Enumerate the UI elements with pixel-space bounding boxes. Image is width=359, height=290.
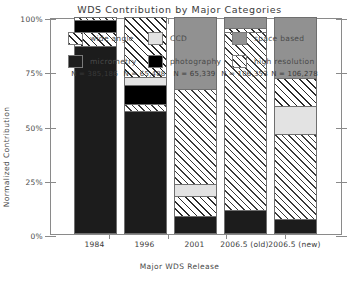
legend-swatch-icon — [232, 55, 247, 68]
legend-item-high: high resolution — [232, 55, 314, 68]
legend-item-space: space based — [232, 32, 304, 45]
legend-label: CCD — [170, 34, 187, 43]
legend-item-wide: wide angle — [68, 32, 134, 45]
legend-swatch-icon — [148, 55, 163, 68]
legend-swatch-icon — [68, 32, 83, 45]
legend-item-ccd: CCD — [148, 32, 187, 45]
legend-swatch-icon — [232, 32, 247, 45]
chart-root: WDS Contribution by Major Categories Nor… — [0, 0, 359, 290]
legend-label: photography — [170, 57, 221, 66]
legend-item-photo: photography — [148, 55, 221, 68]
legend-label: wide angle — [90, 34, 134, 43]
x-axis-title: Major WDS Release — [0, 262, 359, 271]
legend-swatch-icon — [148, 32, 163, 45]
legend-item-micro: micrometry — [68, 55, 136, 68]
legend-swatch-icon — [68, 55, 83, 68]
legend: wide angleCCDspace basedmicrometryphotog… — [0, 0, 359, 290]
legend-label: high resolution — [254, 57, 314, 66]
legend-label: space based — [254, 34, 304, 43]
legend-label: micrometry — [90, 57, 136, 66]
